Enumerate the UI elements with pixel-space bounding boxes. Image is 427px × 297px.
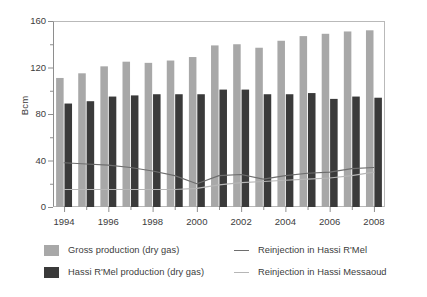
- legend-item-label: Reinjection in Hassi R'Mel: [258, 245, 367, 255]
- bar-gross-production: [167, 61, 175, 207]
- chart-figure: Bcm 04080120160 199419961998200020022004…: [0, 0, 427, 297]
- bar-hassi-rmel-production: [109, 97, 117, 207]
- bar-hassi-rmel-production: [242, 90, 250, 207]
- legend-item-label: Reinjection in Hassi Messaoud: [258, 267, 387, 277]
- bar-gross-production: [255, 48, 263, 207]
- bar-gross-production: [300, 36, 308, 207]
- bar-hassi-rmel-production: [175, 94, 183, 207]
- legend-line-swatch-icon: [234, 267, 249, 278]
- x-axis-tick-label: 2000: [186, 216, 207, 227]
- bar-hassi-rmel-production: [65, 104, 73, 207]
- y-axis-tick-labels: 04080120160: [18, 0, 46, 297]
- bar-gross-production: [344, 31, 352, 207]
- bar-hassi-rmel-production: [308, 93, 316, 207]
- legend-item-reinjection-hassi-rmel: Reinjection in Hassi R'Mel: [234, 240, 367, 260]
- bar-gross-production: [366, 30, 374, 207]
- y-axis-tick-label: 0: [20, 202, 46, 212]
- x-axis-tick-label: 1994: [53, 216, 74, 227]
- bar-gross-production: [145, 63, 153, 207]
- bar-hassi-rmel-production: [352, 97, 360, 207]
- y-axis-tick-label: 120: [20, 63, 46, 73]
- bar-hassi-rmel-production: [374, 98, 382, 207]
- bar-hassi-rmel-production: [264, 94, 272, 207]
- bar-gross-production: [100, 66, 108, 207]
- legend-item-label: Gross production (dry gas): [68, 245, 179, 255]
- bar-hassi-rmel-production: [131, 95, 139, 207]
- y-axis-tick-label: 80: [20, 109, 46, 119]
- bar-hassi-rmel-production: [219, 90, 227, 207]
- bar-gross-production: [56, 78, 64, 207]
- legend-item-reinjection-hassi-messaoud: Reinjection in Hassi Messaoud: [234, 262, 387, 282]
- legend-line-stroke: [234, 272, 249, 273]
- legend-item-gross-production: Gross production (dry gas): [44, 240, 179, 260]
- chart-legend: Gross production (dry gas)Hassi R'Mel pr…: [44, 240, 404, 288]
- y-axis-tick-label: 40: [20, 156, 46, 166]
- bar-gross-production: [78, 73, 86, 207]
- legend-bar-swatch-icon: [44, 245, 59, 256]
- y-axis-tick-label: 160: [20, 16, 46, 26]
- x-axis-tick-label: 1998: [142, 216, 163, 227]
- bar-gross-production: [277, 41, 285, 207]
- legend-line-swatch-icon: [234, 245, 249, 256]
- x-axis-tick-label: 2008: [363, 216, 384, 227]
- x-axis-tick-label: 2004: [275, 216, 296, 227]
- bar-gross-production: [322, 34, 330, 207]
- x-axis-tick-labels: 19941996199820002002200420062008: [53, 207, 385, 231]
- legend-bar-swatch-icon: [44, 267, 59, 278]
- bar-hassi-rmel-production: [87, 101, 95, 207]
- legend-line-stroke: [234, 250, 249, 251]
- bar-hassi-rmel-production: [286, 94, 294, 207]
- x-axis-tick-label: 2002: [231, 216, 252, 227]
- bar-hassi-rmel-production: [330, 99, 338, 207]
- plot-series-layer: [53, 21, 385, 207]
- x-axis-tick-label: 1996: [98, 216, 119, 227]
- bar-gross-production: [123, 62, 131, 207]
- legend-item-label: Hassi R'Mel production (dry gas): [68, 267, 204, 277]
- bar-gross-production: [189, 57, 197, 207]
- legend-item-hassi-rmel-production: Hassi R'Mel production (dry gas): [44, 262, 204, 282]
- bar-gross-production: [211, 45, 219, 207]
- x-axis-tick-label: 2006: [319, 216, 340, 227]
- bar-hassi-rmel-production: [197, 94, 205, 207]
